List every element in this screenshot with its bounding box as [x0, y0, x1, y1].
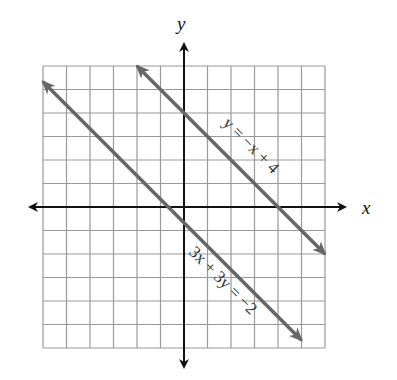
coordinate-plane: x y y = −x + 4 3x + 3y = −2: [0, 0, 397, 380]
y-axis-label: y: [175, 13, 186, 34]
line1-label: y = −x + 4: [219, 113, 283, 177]
line-2: [43, 82, 172, 211]
x-axis-label: x: [361, 197, 371, 218]
